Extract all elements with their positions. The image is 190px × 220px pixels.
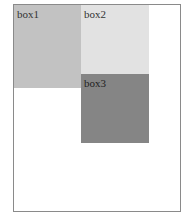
layout-container: box1 box2 box3	[13, 4, 181, 212]
box1-label: box1	[17, 8, 39, 20]
box3-label: box3	[84, 77, 106, 89]
box1: box1	[14, 5, 81, 88]
box3: box3	[81, 74, 149, 143]
box2: box2	[81, 5, 149, 74]
box2-label: box2	[84, 8, 106, 20]
